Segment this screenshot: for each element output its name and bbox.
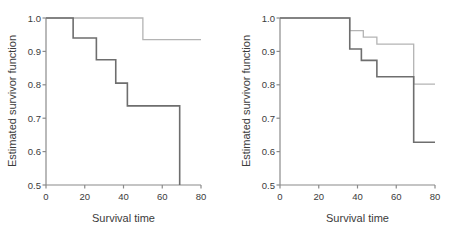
- left-x-tick-label-20: 20: [79, 191, 90, 202]
- right-curve-group-1: [280, 18, 435, 142]
- survival-curves-figure: Estimated survivor function 1.0 0.9 0.8 …: [0, 0, 468, 235]
- left-x-tick-label-0: 0: [43, 191, 48, 202]
- right-x-tick-label-20: 20: [313, 191, 324, 202]
- left-x-axis-title: Survival time: [92, 212, 155, 224]
- right-x-tick-labels: 0 20 40 60 80: [277, 191, 440, 202]
- left-y-tick-label-0.7: 0.7: [28, 113, 41, 124]
- right-y-tick-label-0.6: 0.6: [262, 146, 275, 157]
- right-y-tick-label-0.5: 0.5: [262, 180, 275, 191]
- left-y-tick-label-0.8: 0.8: [28, 79, 41, 90]
- right-panel: Estimated survivor function 1.0 0.9 0.8 …: [234, 0, 468, 235]
- right-x-tick-label-60: 60: [391, 191, 402, 202]
- left-axis-lines: [46, 18, 201, 185]
- right-y-tick-label-0.9: 0.9: [262, 46, 275, 57]
- left-y-axis-title-group: Estimated survivor function: [6, 35, 18, 167]
- left-curve-group-2: [46, 18, 201, 40]
- right-y-tick-label-1.0: 1.0: [262, 13, 275, 24]
- right-y-tick-label-0.8: 0.8: [262, 79, 275, 90]
- right-x-tick-label-40: 40: [352, 191, 363, 202]
- right-y-axis-title-group: Estimated survivor function: [240, 35, 252, 167]
- left-panel-svg: Estimated survivor function 1.0 0.9 0.8 …: [0, 0, 234, 235]
- left-x-tick-labels: 0 20 40 60 80: [43, 191, 206, 202]
- left-x-tick-label-80: 80: [196, 191, 207, 202]
- right-axis-lines: [280, 18, 435, 185]
- right-y-axis-title: Estimated survivor function: [240, 35, 252, 167]
- left-y-tick-label-0.6: 0.6: [28, 146, 41, 157]
- right-y-tick-label-0.7: 0.7: [262, 113, 275, 124]
- right-x-axis-title: Survival time: [326, 212, 389, 224]
- left-y-tick-labels: 1.0 0.9 0.8 0.7 0.6 0.5: [28, 13, 41, 191]
- left-panel: Estimated survivor function 1.0 0.9 0.8 …: [0, 0, 234, 235]
- right-y-tick-labels: 1.0 0.9 0.8 0.7 0.6 0.5: [262, 13, 275, 191]
- left-y-tick-label-0.5: 0.5: [28, 180, 41, 191]
- left-x-tick-label-60: 60: [157, 191, 168, 202]
- left-y-tick-label-0.9: 0.9: [28, 46, 41, 57]
- left-x-tick-label-40: 40: [118, 191, 129, 202]
- left-y-axis-title: Estimated survivor function: [6, 35, 18, 167]
- right-x-tick-label-80: 80: [430, 191, 441, 202]
- right-panel-svg: Estimated survivor function 1.0 0.9 0.8 …: [234, 0, 468, 235]
- right-curve-group-2: [280, 18, 435, 84]
- right-x-tick-label-0: 0: [277, 191, 282, 202]
- left-y-tick-label-1.0: 1.0: [28, 13, 41, 24]
- left-curve-group-1: [46, 18, 180, 185]
